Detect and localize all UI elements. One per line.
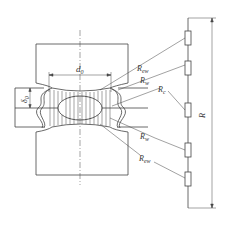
resistor-rw-top bbox=[185, 61, 191, 75]
resistor-rew-top bbox=[185, 31, 191, 45]
spot-weld-resistance-diagram: d0 δ0 R Rew Rw Rc Rw Rew bbox=[0, 0, 233, 228]
R-label: R bbox=[198, 113, 207, 119]
Rw-bottom-label: Rw bbox=[139, 132, 149, 142]
diagram-canvas: d0 δ0 R Rew Rw Rc Rw Rew bbox=[0, 0, 233, 228]
Rew-bottom-label: Rew bbox=[138, 154, 151, 164]
lower-electrode bbox=[36, 124, 128, 175]
R-dimension bbox=[188, 18, 216, 208]
resistor-rw-bottom bbox=[185, 143, 191, 157]
upper-electrode bbox=[36, 44, 128, 91]
Rw-top-label: Rw bbox=[139, 76, 149, 86]
series-resistor-chain bbox=[185, 18, 191, 208]
delta0-label: δ0 bbox=[20, 96, 30, 103]
Rew-top-label: Rew bbox=[136, 64, 149, 74]
d0-label: d0 bbox=[76, 64, 84, 75]
resistor-rc bbox=[185, 103, 191, 117]
resistor-rew-bottom bbox=[185, 172, 191, 186]
Rc-label: Rc bbox=[157, 85, 166, 95]
